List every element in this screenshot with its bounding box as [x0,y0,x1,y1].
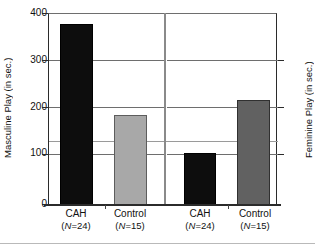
right-y-tick-mark-100 [277,154,284,155]
x-label-name-2: Control [93,208,167,220]
y-tick-label-100: 100 [30,148,47,158]
y-axis-title-right: Feminine Play (in sec.) [303,30,314,190]
x-label-n-4: (N=15) [218,220,292,232]
y-axis-title-left: Masculine Play (in sec.) [2,28,13,188]
x-label-group-2: Control (N=15) [93,208,167,231]
bar-cah-feminine[interactable] [184,153,216,206]
x-label-name-4: Control [218,208,292,220]
figure-bottom-rule [0,243,315,244]
bar-control-masculine[interactable] [114,115,147,206]
gridline-right-300 [167,60,278,61]
bar-cah-masculine[interactable] [60,24,93,206]
chart-figure: Masculine Play (in sec.) Feminine Play (… [0,0,315,248]
plot-area [48,13,277,205]
right-y-tick-mark-300 [277,60,284,61]
x-label-group-4: Control (N=15) [218,208,292,231]
right-y-tick-mark-200 [277,107,284,108]
panel-divider [164,13,166,205]
x-axis-baseline [44,204,281,206]
x-label-n-2: (N=15) [93,220,167,232]
bar-control-feminine[interactable] [237,100,270,206]
